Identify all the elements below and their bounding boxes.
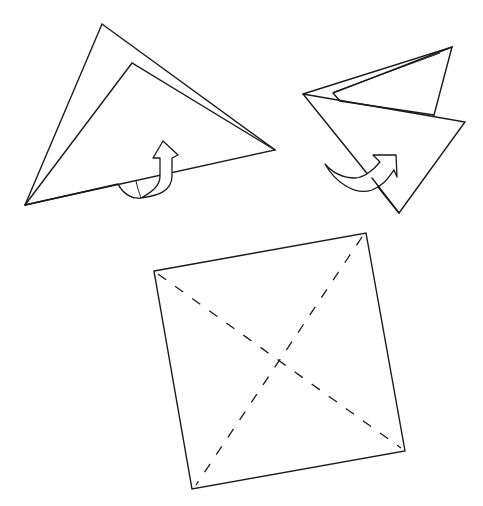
origami-diagram bbox=[0, 0, 483, 506]
triangle-outer-edge bbox=[25, 24, 275, 205]
folded-triangle-right bbox=[303, 47, 465, 213]
curved-arrow-right-icon bbox=[325, 155, 397, 191]
creased-square bbox=[154, 233, 405, 489]
triangle-inner-flap bbox=[25, 63, 275, 205]
folded-triangle-left bbox=[25, 24, 275, 205]
triangle-edge-over-arrow bbox=[372, 178, 399, 213]
front-triangle-edge bbox=[303, 94, 465, 213]
curved-arrow-up-icon bbox=[118, 141, 178, 198]
crease-diagonal-tr-bl bbox=[196, 237, 362, 485]
inner-flap-edge bbox=[333, 47, 452, 115]
inner-flap-layer bbox=[334, 53, 440, 92]
